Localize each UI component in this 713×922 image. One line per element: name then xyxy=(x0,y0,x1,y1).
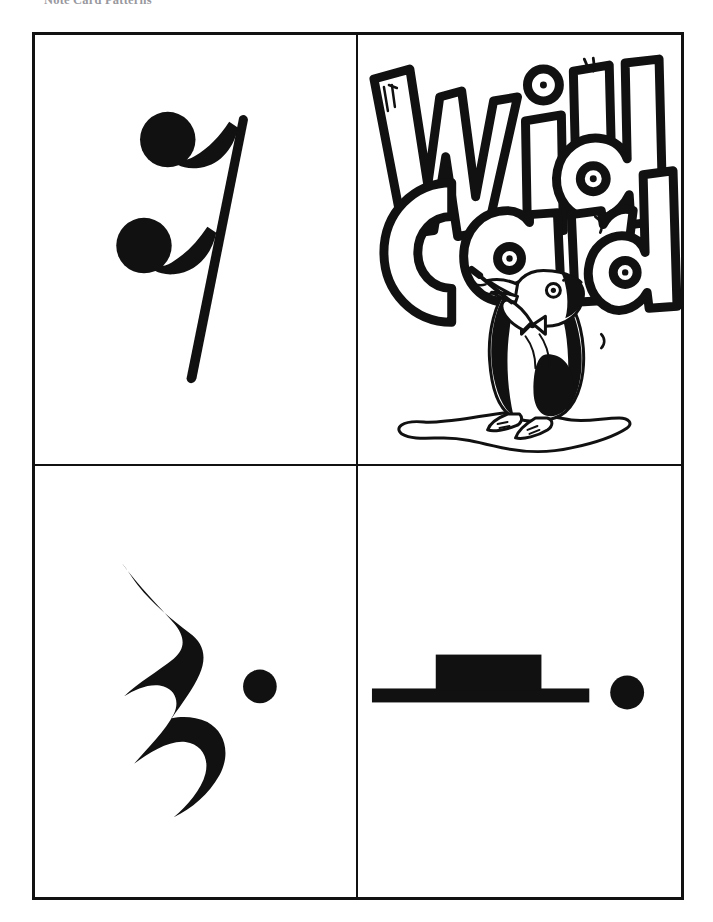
card-cell-sixteenth-rest[interactable]: Sixteenth rest xyxy=(35,35,358,466)
sixteenth-rest-icon xyxy=(35,35,356,464)
card-cell-wild-card[interactable]: Wild Card Wild Card xyxy=(358,35,681,466)
card-cell-dotted-half-rest[interactable]: Dotted half rest xyxy=(358,466,681,897)
dotted-half-rest-icon xyxy=(358,466,681,897)
dotted-quarter-rest-icon xyxy=(35,466,356,897)
augmentation-dot xyxy=(610,676,644,710)
augmentation-dot xyxy=(243,670,277,704)
page-title: Note Card Patterns xyxy=(44,0,344,7)
wild-card-penguin-icon xyxy=(358,35,681,464)
card-grid: Sixteenth rest Wild Card Wild Card xyxy=(32,32,684,900)
half-rest-block xyxy=(436,655,542,691)
card-cell-dotted-quarter-rest[interactable]: Dotted quarter rest xyxy=(35,466,358,897)
staff-line xyxy=(372,688,589,702)
